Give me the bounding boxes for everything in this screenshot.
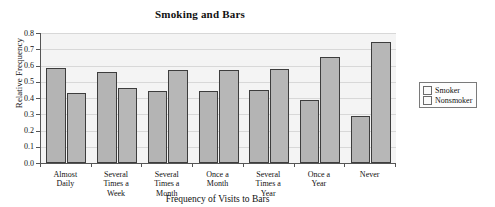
x-axis-category-label-line: Times a — [154, 179, 179, 188]
bar-nonsmoker-3 — [219, 70, 239, 163]
y-axis-tick-label: 0.0 — [12, 159, 34, 168]
y-axis-tick-label: 0.5 — [12, 77, 34, 86]
bar-smoker-5 — [300, 100, 320, 163]
x-axis-category-label-line: Times a — [256, 179, 281, 188]
x-axis-tick — [192, 163, 193, 167]
legend-label-smoker: Smoker — [435, 86, 460, 95]
legend: Smoker Nonsmoker — [419, 82, 477, 108]
bar-smoker-3 — [199, 91, 219, 163]
bar-smoker-4 — [249, 90, 269, 163]
x-axis-category-label-line: Times a — [103, 179, 128, 188]
bars-layer — [41, 33, 396, 163]
x-axis-tick — [243, 163, 244, 167]
x-axis-category-label-line: Daily — [56, 179, 74, 188]
y-axis-tick-label: 0.2 — [12, 126, 34, 135]
x-axis-category-label: Once aYear — [294, 170, 345, 189]
legend-label-nonsmoker: Nonsmoker — [435, 96, 472, 105]
x-axis-category-label-line: Year — [312, 179, 327, 188]
x-axis-tick — [344, 163, 345, 167]
chart-figure: Smoking and Bars Relative Frequency 0.00… — [0, 0, 495, 207]
bar-smoker-1 — [97, 72, 117, 163]
x-axis-category-label-line: Several — [155, 170, 179, 179]
x-axis-tick — [395, 163, 396, 167]
x-axis-tick — [40, 163, 41, 167]
bar-nonsmoker-6 — [371, 42, 391, 163]
y-axis-tick-label: 0.8 — [12, 29, 34, 38]
legend-swatch-nonsmoker — [423, 96, 432, 105]
x-axis-tick — [141, 163, 142, 167]
chart-title: Smoking and Bars — [0, 8, 400, 20]
bar-nonsmoker-0 — [67, 93, 87, 163]
bar-nonsmoker-2 — [168, 70, 188, 163]
y-axis-tick-label: 0.4 — [12, 94, 34, 103]
y-axis-tick-label: 0.6 — [12, 61, 34, 70]
x-axis-title: Frequency of Visits to Bars — [40, 194, 395, 204]
bar-nonsmoker-4 — [270, 69, 290, 163]
x-axis-category-label: Once aMonth — [192, 170, 243, 189]
x-axis-category-label-line: Almost — [54, 170, 78, 179]
y-axis-tick-label: 0.1 — [12, 142, 34, 151]
y-axis-tick-label: 0.7 — [12, 45, 34, 54]
x-axis-tick — [294, 163, 295, 167]
plot-area — [40, 33, 396, 164]
x-axis-category-label-line: Month — [207, 179, 228, 188]
x-axis-category-label-line: Once a — [308, 170, 330, 179]
y-axis-tick-label: 0.3 — [12, 110, 34, 119]
bar-nonsmoker-5 — [320, 57, 340, 163]
x-axis-category-label-line: Never — [360, 170, 380, 179]
x-axis-category-label: AlmostDaily — [40, 170, 91, 189]
legend-item-smoker[interactable]: Smoker — [423, 85, 472, 95]
bar-smoker-6 — [351, 116, 371, 163]
legend-item-nonsmoker[interactable]: Nonsmoker — [423, 95, 472, 105]
x-axis-tick — [91, 163, 92, 167]
x-axis-category-label-line: Several — [256, 170, 280, 179]
x-axis-category-label-line: Several — [104, 170, 128, 179]
legend-swatch-smoker — [423, 86, 432, 95]
x-axis-category-label-line: Once a — [206, 170, 228, 179]
bar-smoker-0 — [46, 68, 66, 163]
x-axis-category-label: Never — [344, 170, 395, 179]
bar-smoker-2 — [148, 91, 168, 163]
bar-nonsmoker-1 — [118, 88, 138, 163]
